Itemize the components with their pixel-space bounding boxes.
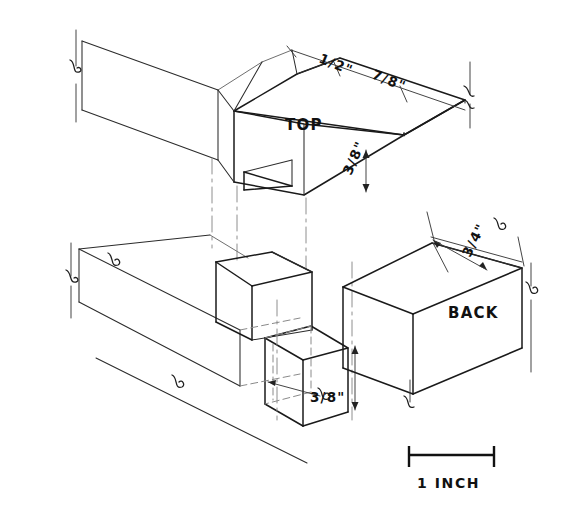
upper-left-rail <box>82 41 292 160</box>
scale-bar-label: 1 INCH <box>417 475 480 491</box>
lower-vertical-post <box>216 252 312 340</box>
dimension-seven-eighths: 7/8" <box>370 66 409 94</box>
upper-assembly <box>82 41 465 268</box>
lower-assembly <box>79 235 352 463</box>
hidden-construction-a <box>240 318 300 330</box>
isometric-joinery-sketch: 1/2" 7/8" 3/8" TOP <box>0 0 565 506</box>
drawing-canvas: 1/2" 7/8" 3/8" TOP <box>0 0 565 506</box>
back-dimension-group: 3/4" <box>427 212 524 272</box>
top-thickness-dimension-group: 3/8" <box>339 138 369 192</box>
tenon-dimension-group: 3/8" <box>268 346 359 410</box>
part-label-top: TOP <box>285 116 323 134</box>
scale-bar-group: 1 INCH <box>409 446 494 491</box>
part-label-back: BACK <box>448 304 499 322</box>
top-dimension-group: 1/2" 7/8" <box>287 46 465 110</box>
dimension-three-eighths-tenon: 3/8" <box>310 389 346 405</box>
hidden-construction-b <box>240 374 300 386</box>
break-symbols-upper <box>70 30 474 128</box>
dimension-three-quarters: 3/4" <box>458 220 488 259</box>
dimension-half-inch: 1/2" <box>317 50 356 78</box>
